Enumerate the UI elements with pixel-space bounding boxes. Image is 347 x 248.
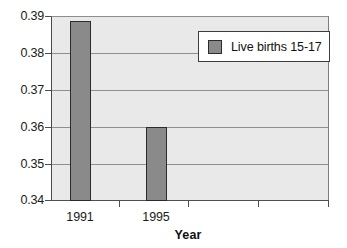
y-tick-0-35	[45, 164, 51, 165]
x-axis-title: Year	[128, 228, 248, 242]
x-tick-3	[258, 201, 259, 207]
gridline-0-36	[52, 127, 328, 128]
x-tick-4	[328, 201, 329, 207]
legend-item-label: Live births 15-17	[231, 40, 322, 54]
y-tick-0-36	[45, 127, 51, 128]
chart-legend: Live births 15-17	[198, 31, 330, 62]
y-axis-label-0-37: 0.37	[0, 84, 44, 96]
x-tick-2	[188, 201, 189, 207]
bar-1991	[70, 21, 91, 201]
gridline-0-35	[52, 164, 328, 165]
x-axis-line	[51, 200, 329, 201]
x-axis-label-1991: 1991	[50, 210, 110, 224]
y-tick-0-39	[45, 16, 51, 17]
y-axis-label-0-34: 0.34	[0, 194, 44, 206]
y-axis-label-0-39: 0.39	[0, 10, 44, 22]
bar-1995	[146, 127, 167, 201]
x-axis-label-1995: 1995	[126, 210, 186, 224]
y-axis-label-0-36: 0.36	[0, 121, 44, 133]
y-tick-0-37	[45, 90, 51, 91]
y-axis-label-0-38: 0.38	[0, 47, 44, 59]
gridline-0-37	[52, 90, 328, 91]
x-tick-1	[119, 201, 120, 207]
y-tick-0-34	[45, 200, 51, 201]
bar-chart: 0.39 0.38 0.37 0.36 0.35 0.34 1991 1995 …	[0, 0, 347, 248]
legend-swatch-icon	[208, 40, 222, 54]
y-axis-label-0-35: 0.35	[0, 158, 44, 170]
y-tick-0-38	[45, 53, 51, 54]
